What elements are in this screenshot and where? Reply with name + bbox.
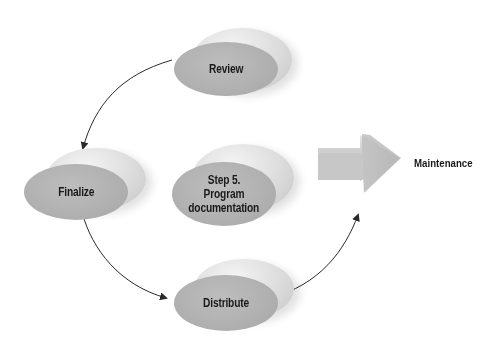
node-distribute: Distribute: [170, 255, 300, 335]
output-maintenance-label: Maintenance: [414, 157, 473, 169]
big-arrow-icon: [318, 134, 401, 193]
node-program-documentation: Step 5. Program documentation: [170, 140, 305, 230]
node-finalize-label: Finalize: [58, 185, 94, 199]
node-distribute-label: Distribute: [203, 296, 249, 310]
center-line-3: documentation: [189, 201, 260, 215]
center-line-1: Step 5.: [208, 173, 240, 187]
edge-finalize-to-distribute: [82, 212, 166, 298]
node-review-label: Review: [209, 62, 243, 76]
process-cycle-diagram: Review Finalize Step 5. Program document…: [0, 0, 500, 339]
edge-review-to-finalize: [83, 60, 172, 148]
center-line-2: Program: [204, 187, 245, 201]
node-review: Review: [170, 22, 300, 102]
node-finalize: Finalize: [20, 140, 150, 220]
